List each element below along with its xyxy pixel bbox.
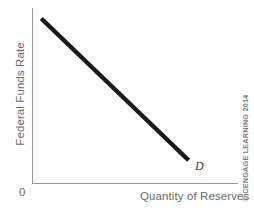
demand-curve-label: D: [195, 159, 204, 174]
x-axis-label: Quantity of Reserves: [140, 190, 249, 202]
demand-curve-line: [41, 19, 188, 161]
origin-label: 0: [19, 186, 25, 198]
y-axis-label: Federal Funds Rate: [14, 42, 26, 145]
demand-curve-figure: Federal Funds Rate Quantity of Reserves …: [0, 0, 254, 211]
copyright-notice: © CENGAGE LEARNING 2014: [241, 95, 250, 202]
demand-curve-svg: [0, 0, 254, 211]
plot-area: [0, 0, 254, 211]
